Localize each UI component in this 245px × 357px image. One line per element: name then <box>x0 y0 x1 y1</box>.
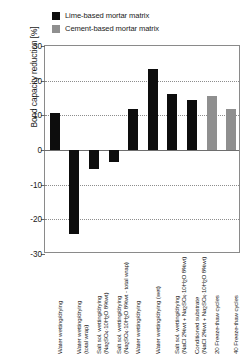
bar-3 <box>89 150 99 169</box>
y-tick-label-20: 20 <box>20 76 42 85</box>
bar-8 <box>187 100 197 150</box>
y-tick-label-30: 30 <box>20 42 42 51</box>
legend-label-cement: Cement-based mortar matrix <box>65 25 159 33</box>
x-tick-label-5: Water wetting/drying <box>135 254 142 354</box>
x-tick-label-10: 40 Freeze-thaw cycles <box>233 254 240 354</box>
y-tick-label--20: -20 <box>20 215 42 224</box>
bar-6 <box>148 69 158 150</box>
y-tick-label--30: -30 <box>20 250 42 259</box>
bar-4 <box>109 150 119 162</box>
plot-area: 3020100-10-20-30 <box>44 45 240 253</box>
bar-2 <box>69 150 79 234</box>
y-tick-label-10: 10 <box>20 111 42 120</box>
x-tick-label-8: Conditioned substrate(NaCl 2%wt + Na2SO4… <box>194 254 208 354</box>
x-tick-label-3: Salt sol. wetting/drying(Na2SO4·10H2O 8%… <box>96 254 110 354</box>
bar-10 <box>226 109 236 150</box>
bar-1 <box>50 113 60 150</box>
legend-item-lime: Lime-based mortar matrix <box>52 9 242 22</box>
x-tick-label-6: Water wetting/drying (wet) <box>155 254 162 354</box>
legend-swatch-cement <box>52 25 60 33</box>
bar-chart-figure: Lime-based mortar matrix Cement-based mo… <box>0 0 245 357</box>
legend-swatch-lime <box>52 12 60 20</box>
bar-9 <box>207 96 217 150</box>
x-tick-label-9: 20 Freeze-thaw cycles <box>214 254 221 354</box>
y-tick-label--10: -10 <box>20 180 42 189</box>
x-axis-tick-labels: Water wetting/dryingWater wetting/drying… <box>44 254 240 357</box>
chart-legend: Lime-based mortar matrix Cement-based mo… <box>52 9 242 35</box>
gridline-20 <box>45 81 239 82</box>
x-tick-label-2: Water wetting/drying(total wrap) <box>76 254 90 354</box>
bar-7 <box>167 94 177 150</box>
x-tick-label-1: Water wetting/drying <box>57 254 64 354</box>
x-tick-label-7: Salt sol. wetting/drying(NaCl 2%wt + Na2… <box>174 254 188 354</box>
y-tick-label-0: 0 <box>20 146 42 155</box>
legend-label-lime: Lime-based mortar matrix <box>65 12 149 20</box>
bar-5 <box>128 109 138 150</box>
legend-item-cement: Cement-based mortar matrix <box>52 22 242 35</box>
x-tick-label-4: Salt sol. wetting/drying(Na2SO4·10H2O 8%… <box>116 254 130 354</box>
